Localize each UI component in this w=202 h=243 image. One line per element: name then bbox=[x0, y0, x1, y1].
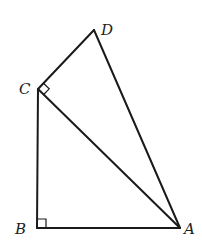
right-angle-mark-c bbox=[44, 83, 50, 94]
segment-da bbox=[94, 30, 180, 228]
right-angle-mark-b bbox=[37, 219, 46, 228]
label-c: C bbox=[19, 80, 31, 98]
label-b: B bbox=[14, 220, 26, 238]
segment-cd bbox=[38, 30, 94, 89]
label-a: A bbox=[182, 220, 195, 238]
label-d: D bbox=[100, 21, 113, 39]
geometry-diagram: D C B A bbox=[0, 0, 202, 243]
segment-bc bbox=[37, 89, 38, 228]
segment-ca bbox=[38, 89, 180, 228]
